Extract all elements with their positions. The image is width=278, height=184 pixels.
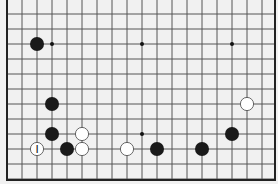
go-board[interactable]: I xyxy=(0,0,278,184)
black-stone[interactable] xyxy=(30,37,44,51)
white-stone[interactable] xyxy=(240,97,253,110)
stone-label: I xyxy=(35,143,38,156)
black-stone[interactable] xyxy=(195,142,209,156)
black-stone[interactable] xyxy=(225,127,239,141)
black-stone[interactable] xyxy=(60,142,74,156)
star-point xyxy=(140,132,144,136)
white-stone[interactable] xyxy=(75,127,88,140)
white-stone[interactable] xyxy=(75,142,88,155)
black-stone[interactable] xyxy=(150,142,164,156)
white-stone[interactable] xyxy=(120,142,133,155)
star-point xyxy=(230,42,234,46)
star-point xyxy=(140,42,144,46)
go-board-grid[interactable]: I xyxy=(0,0,278,184)
black-stone[interactable] xyxy=(45,97,59,111)
black-stone[interactable] xyxy=(45,127,59,141)
star-point xyxy=(50,42,54,46)
